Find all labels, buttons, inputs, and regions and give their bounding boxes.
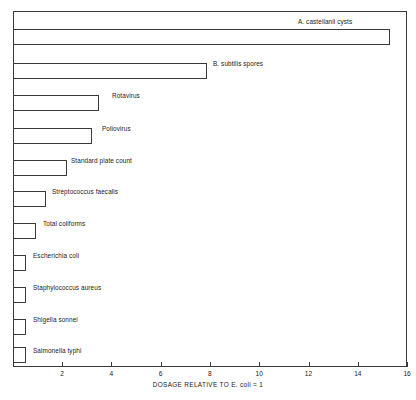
- x-tick-label: 4: [109, 370, 113, 378]
- bar-label: Salmonella typhi: [33, 347, 82, 355]
- bar-label: Escherichia coli: [33, 252, 79, 260]
- x-tick-label: 6: [159, 370, 163, 378]
- bar: [13, 287, 27, 303]
- bar: [13, 191, 46, 207]
- bar-label: Total coliforms: [43, 220, 85, 228]
- bar: [13, 255, 27, 271]
- bar: [13, 319, 27, 335]
- bar-label: B. subtilis spores: [213, 60, 263, 68]
- bar-label: Staphylococcus aureus: [33, 284, 101, 292]
- bar-label: A. castellanii cysts: [298, 18, 352, 26]
- x-axis-title: DOSAGE RELATIVE TO E. coli = 1: [0, 381, 416, 388]
- bar-label: Rotavirus: [112, 92, 140, 100]
- bar: [13, 63, 208, 79]
- bar-label: Standard plate count: [71, 157, 132, 165]
- bar: [13, 160, 67, 176]
- x-tick-label: 12: [305, 370, 312, 378]
- x-tick-label: 16: [403, 370, 410, 378]
- bar: [13, 29, 390, 45]
- x-tick-mark: [407, 362, 408, 367]
- x-tick-label: 2: [60, 370, 64, 378]
- bar: [13, 95, 99, 111]
- x-tick-label: 8: [208, 370, 212, 378]
- bar-label: Shigella sonnei: [33, 316, 78, 324]
- x-tick-label: 10: [256, 370, 263, 378]
- bar: [13, 347, 27, 363]
- bar-label: Streptococcus faecalis: [52, 188, 118, 196]
- bar: [13, 128, 92, 144]
- x-tick-label: 14: [354, 370, 361, 378]
- bar: [13, 223, 36, 239]
- dosage-bar-chart: A. castellanii cystsB. subtilis sporesRo…: [0, 0, 416, 400]
- bar-label: Poliovirus: [102, 125, 131, 133]
